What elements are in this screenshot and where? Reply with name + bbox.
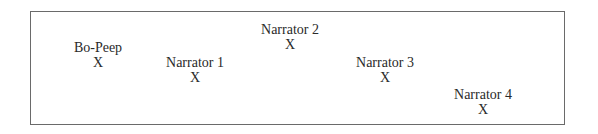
x-mark-icon: X bbox=[166, 70, 224, 85]
position-bo-peep: Bo-Peep X bbox=[74, 40, 122, 70]
x-mark-icon: X bbox=[356, 70, 414, 85]
position-label: Bo-Peep bbox=[74, 40, 122, 55]
position-narrator-3: Narrator 3 X bbox=[356, 55, 414, 85]
position-narrator-4: Narrator 4 X bbox=[454, 87, 512, 117]
position-label: Narrator 2 bbox=[261, 22, 319, 37]
x-mark-icon: X bbox=[454, 102, 512, 117]
position-label: Narrator 4 bbox=[454, 87, 512, 102]
position-narrator-1: Narrator 1 X bbox=[166, 55, 224, 85]
position-narrator-2: Narrator 2 X bbox=[261, 22, 319, 52]
x-mark-icon: X bbox=[261, 37, 319, 52]
x-mark-icon: X bbox=[74, 55, 122, 70]
position-label: Narrator 3 bbox=[356, 55, 414, 70]
position-label: Narrator 1 bbox=[166, 55, 224, 70]
